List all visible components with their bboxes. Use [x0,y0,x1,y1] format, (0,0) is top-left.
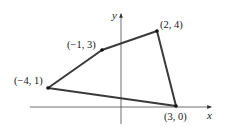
vertex-point-a [46,86,50,90]
vertex-label-a: (−4, 1) [14,75,43,87]
y-axis-label: y [111,9,117,21]
vertex-point-c [155,29,159,33]
vertex-label-b: (−1, 3) [67,39,96,51]
coordinate-plane: x y (−4, 1) (−1, 3) (2, 4) (3, 0) [0,0,226,130]
vertex-point-d [174,104,178,108]
vertex-label-d: (3, 0) [164,111,187,123]
x-axis-label: x [206,109,212,121]
vertex-label-c: (2, 4) [160,19,183,31]
vertex-point-b [100,48,104,52]
